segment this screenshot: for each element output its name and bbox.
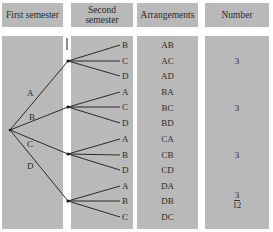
first-branch-label-C: C — [27, 139, 33, 149]
leaf-C-1: B — [122, 150, 128, 160]
first-branch-label-B: B — [29, 112, 35, 122]
leaf-C-0: A — [122, 134, 129, 144]
branch-C — [10, 130, 68, 154]
branch-A — [10, 61, 68, 130]
branch-D — [10, 130, 68, 201]
leaf-B-2: D — [122, 118, 129, 128]
leaf-D-1: B — [122, 196, 128, 206]
leaf-B-0: A — [122, 87, 129, 97]
leaf-D-2: C — [122, 212, 128, 222]
first-branch-label-D: D — [27, 161, 34, 171]
leaf-A-0: B — [122, 40, 128, 50]
leaf-C-2: D — [122, 165, 129, 175]
first-branch-label-A: A — [27, 88, 34, 98]
leaf-D-0: A — [122, 181, 129, 191]
tree-diagram — [0, 0, 273, 232]
leaf-A-1: C — [122, 56, 128, 66]
leaf-A-2: D — [122, 71, 129, 81]
leaf-B-1: C — [122, 102, 128, 112]
branch-B — [10, 107, 68, 130]
root-node — [9, 129, 12, 132]
